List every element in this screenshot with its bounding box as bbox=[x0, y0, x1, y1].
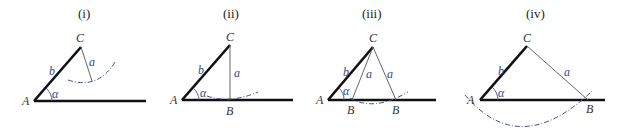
side-label-a: a bbox=[564, 65, 570, 79]
side-a bbox=[527, 46, 588, 100]
vertex-label-b: B bbox=[226, 104, 234, 118]
angle-label-alpha: α bbox=[200, 86, 207, 100]
side-label-a: a bbox=[234, 66, 240, 80]
panel-ii: (ii) A C B b a α bbox=[169, 6, 293, 118]
side-label-a-long: a bbox=[387, 67, 393, 81]
angle-label-alpha: α bbox=[343, 84, 350, 98]
side-label-b: b bbox=[498, 64, 504, 78]
panel-i: (i) A C b a α bbox=[21, 6, 146, 108]
panel-iii: (iii) A C B B b a a α bbox=[315, 6, 436, 117]
vertex-label-a: A bbox=[21, 94, 30, 108]
side-label-b: b bbox=[343, 65, 349, 79]
panel-caption: (i) bbox=[78, 6, 90, 21]
vertex-label-c: C bbox=[369, 31, 378, 45]
vertex-label-c: C bbox=[226, 30, 235, 44]
panel-caption: (iv) bbox=[526, 6, 545, 21]
radius-arc bbox=[207, 92, 258, 99]
vertex-label-a: A bbox=[315, 93, 324, 107]
ssa-ambiguous-case-diagram: (i) A C b a α (ii) A C B b a α (iii) A C bbox=[0, 0, 618, 134]
angle-label-alpha: α bbox=[498, 86, 505, 100]
angle-label-alpha: α bbox=[52, 87, 59, 101]
panel-caption: (iii) bbox=[362, 6, 382, 21]
vertex-label-c: C bbox=[76, 31, 85, 45]
panel-iv: (iv) A C B b a α bbox=[465, 6, 605, 127]
vertex-label-b1: B bbox=[347, 103, 355, 117]
side-label-b: b bbox=[198, 63, 204, 77]
vertex-label-a: A bbox=[466, 93, 475, 107]
vertex-label-c: C bbox=[523, 31, 532, 45]
side-label-a: a bbox=[89, 55, 95, 69]
vertex-label-b: B bbox=[586, 102, 594, 116]
side-label-a-short: a bbox=[366, 67, 372, 81]
panel-caption: (ii) bbox=[223, 6, 239, 21]
vertex-label-a: A bbox=[169, 93, 178, 107]
side-label-b: b bbox=[49, 64, 55, 78]
angle-arc bbox=[193, 88, 199, 100]
vertex-label-b2: B bbox=[392, 103, 400, 117]
radius-arc bbox=[350, 92, 408, 104]
